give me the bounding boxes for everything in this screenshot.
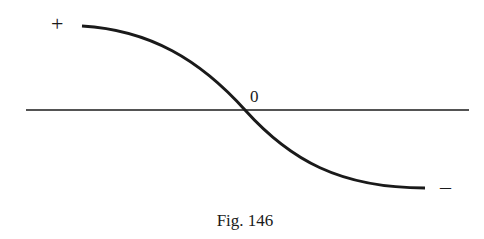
s-curve xyxy=(82,26,425,188)
negative-label: – xyxy=(440,176,451,198)
figure-caption: Fig. 146 xyxy=(0,212,484,229)
zero-label: 0 xyxy=(250,88,259,105)
positive-label: + xyxy=(51,13,63,35)
diagram-canvas xyxy=(0,0,484,239)
